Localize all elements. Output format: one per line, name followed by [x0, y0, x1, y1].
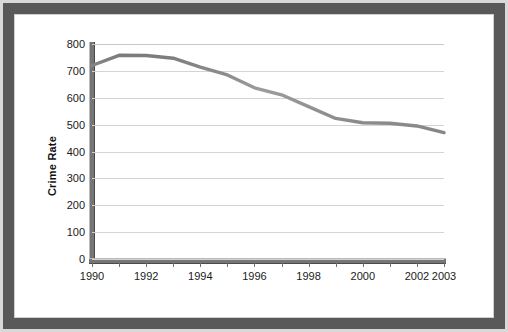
y-axis-tick-label: 700 — [67, 66, 85, 77]
x-axis-tick-label: 1990 — [80, 270, 104, 282]
y-axis-tick-label: 0 — [79, 254, 85, 265]
x-axis-tick-label: 1994 — [188, 270, 212, 282]
y-axis-tick-label: 100 — [67, 227, 85, 238]
x-axis-tick-mark — [92, 262, 93, 267]
x-axis-tick-mark — [227, 262, 228, 267]
y-axis-tick-label: 500 — [67, 120, 85, 131]
gridline — [92, 259, 444, 260]
x-axis-tick-label: 2002 — [405, 270, 429, 282]
y-axis-tick-label: 600 — [67, 93, 85, 104]
x-axis-tick-mark — [417, 262, 418, 267]
figure-border: Crime Rate 0100200300400500600700800 — [3, 3, 505, 329]
y-axis-tick-label: 800 — [67, 39, 85, 50]
x-axis-tick-label: 1998 — [296, 270, 320, 282]
y-axis-tick-label: 200 — [67, 200, 85, 211]
x-axis-tick-label: 2003 — [432, 270, 456, 282]
x-axis-tick-label: 1996 — [242, 270, 266, 282]
x-axis-tick-mark — [173, 262, 174, 267]
x-axis-tick-mark — [309, 262, 310, 267]
x-axis-tick-mark — [363, 262, 364, 267]
plot-area — [92, 44, 444, 259]
x-axis-tick-mark — [282, 262, 283, 267]
x-axis-tick-mark — [254, 262, 255, 267]
x-axis-tick-label: 1992 — [134, 270, 158, 282]
x-axis-tick-mark — [336, 262, 337, 267]
x-axis-tick-mark — [390, 262, 391, 267]
y-axis-tick-label: 300 — [67, 173, 85, 184]
line-series-crime-rate — [92, 44, 444, 259]
figure-frame: Crime Rate 0100200300400500600700800 — [0, 0, 508, 332]
y-axis-tick-label: 400 — [67, 147, 85, 158]
x-axis-tick-mark — [119, 262, 120, 267]
chart-panel: Crime Rate 0100200300400500600700800 — [14, 14, 494, 318]
x-axis-tick-label: 2000 — [351, 270, 375, 282]
x-axis-tick-mark — [444, 262, 445, 267]
x-axis-tick-mark — [146, 262, 147, 267]
x-axis-tick-mark — [200, 262, 201, 267]
